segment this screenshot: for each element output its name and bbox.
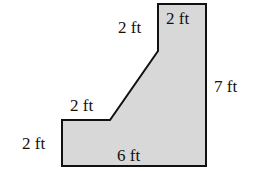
bottom-width-label: 6 ft <box>117 146 140 165</box>
upper-left-vertical-label: 2 ft <box>118 18 141 37</box>
top-width-label: 2 ft <box>166 9 189 28</box>
left-height-label: 2 ft <box>22 134 45 153</box>
right-height-label: 7 ft <box>214 77 237 96</box>
composite-shape-diagram: 2 ft 2 ft 7 ft 2 ft 2 ft 6 ft <box>0 0 266 171</box>
step-width-label: 2 ft <box>70 96 93 115</box>
